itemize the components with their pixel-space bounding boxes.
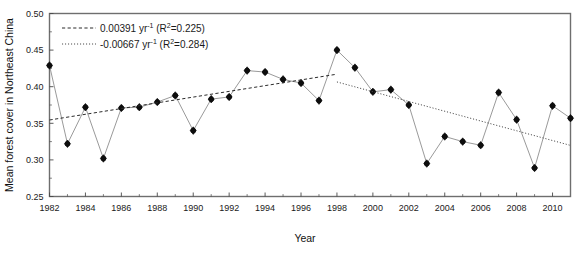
legend-label-0: 0.00391 yr-1 (R2=0.225) [100,22,205,33]
data-point [532,164,538,172]
data-point-diamond [208,95,214,103]
data-point-diamond [190,127,196,135]
y-tick-label: 0.30 [26,155,44,165]
data-markers-group [47,46,574,171]
x-tick-label: 2002 [399,203,419,213]
x-tick-label: 2008 [507,203,527,213]
data-point-diamond [100,155,106,163]
data-point-diamond [460,138,466,146]
x-tick-label: 1988 [147,203,167,213]
data-point [154,98,160,106]
data-point-diamond [280,76,286,84]
legend-label-1: -0.00667 yr-1 (R2=0.284) [100,38,208,50]
figure-container: 0.250.300.350.400.450.50 198219841986198… [0,0,587,253]
x-tick-label: 1984 [75,203,95,213]
data-point [208,95,214,103]
data-point-diamond [388,86,394,94]
data-point-diamond [478,141,484,149]
x-tick-label: 1992 [219,203,239,213]
data-point [172,92,178,100]
x-tick-label: 1996 [291,203,311,213]
y-tick-label: 0.35 [26,119,44,129]
trend-line-decreasing-trend [337,82,571,145]
x-axis-tick-labels: 1982198419861988199019921994199619982000… [39,203,562,213]
data-point-diamond [172,92,178,100]
data-point-diamond [136,103,142,111]
chart-canvas: 0.250.300.350.400.450.50 198219841986198… [0,0,587,253]
data-series-group [50,50,571,168]
data-point [100,155,106,163]
legend: 0.00391 yr-1 (R2=0.225)-0.00667 yr-1 (R2… [62,22,208,49]
x-tick-label: 1986 [111,203,131,213]
data-point-diamond [550,102,556,110]
x-tick-label: 2000 [363,203,383,213]
data-point [568,114,574,122]
data-point-diamond [568,114,574,122]
series-polyline [50,50,571,168]
data-point [262,68,268,76]
x-tick-label: 2006 [471,203,491,213]
data-point [550,102,556,110]
y-tick-label: 0.45 [26,45,44,55]
data-point [136,103,142,111]
data-point [82,103,88,111]
data-point-diamond [64,140,70,148]
data-point [388,86,394,94]
x-tick-label: 1994 [255,203,275,213]
data-point [406,101,412,109]
y-tick-label: 0.25 [26,192,44,202]
data-point [460,138,466,146]
trend-line-increasing-trend [50,74,337,120]
data-point [64,140,70,148]
x-tick-label: 1982 [39,203,59,213]
x-tick-label: 1990 [183,203,203,213]
x-tick-label: 2010 [543,203,563,213]
data-point [478,141,484,149]
data-point-diamond [82,103,88,111]
data-point-diamond [262,68,268,76]
x-tick-label: 2004 [435,203,455,213]
y-tick-label: 0.40 [26,82,44,92]
y-axis-title: Mean forest cover in Northeast China [3,18,15,192]
x-axis-title: Year [294,232,316,244]
data-point [280,76,286,84]
y-axis-tick-labels: 0.250.300.350.400.450.50 [26,9,44,202]
data-point-diamond [532,164,538,172]
x-tick-label: 1998 [327,203,347,213]
data-point-diamond [154,98,160,106]
y-tick-label: 0.50 [26,9,44,19]
data-point-diamond [406,101,412,109]
data-point [190,127,196,135]
